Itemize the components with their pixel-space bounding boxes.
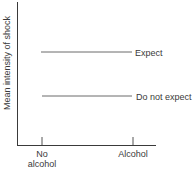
chart: Expect Do not expect Mean intensity of s… — [0, 0, 193, 172]
x-label-alcohol-word: alcohol — [28, 159, 57, 169]
x-label-alcohol: Alcohol — [118, 149, 148, 159]
y-axis-label: Mean intensity of shock — [2, 15, 12, 110]
series-label-expect: Expect — [135, 48, 163, 58]
series-label-do-not-expect: Do not expect — [136, 92, 192, 102]
x-label-no: No — [36, 149, 48, 159]
